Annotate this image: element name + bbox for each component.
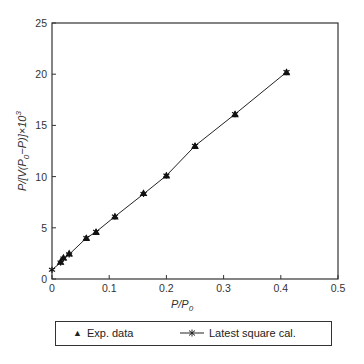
y-tick-label: 5 [41, 222, 47, 234]
y-axis-ticks: 0510152025 [35, 17, 56, 285]
triangle-marker [283, 68, 291, 75]
chart-canvas: 00.10.20.30.40.5 0510152025 P/P0 P/[V(P0… [0, 0, 364, 364]
y-tick-label: 15 [35, 119, 47, 131]
plot-frame [52, 23, 338, 279]
x-tick-label: 0.5 [331, 282, 346, 294]
triangle-marker [83, 234, 91, 241]
x-axis-ticks: 00.10.20.30.40.5 [49, 275, 345, 294]
legend: ▲ Exp. data Latest square cal. [55, 321, 332, 346]
y-tick-label: 20 [35, 68, 47, 80]
triangle-marker [191, 142, 199, 149]
x-tick-label: 0.4 [273, 282, 288, 294]
triangle-marker-icon: ▲ [73, 328, 82, 338]
x-tick-label: 0.1 [102, 282, 117, 294]
legend-item-fit-line: Latest square cal. [180, 327, 296, 339]
x-tick-label: 0.2 [159, 282, 174, 294]
x-tick-label: 0 [49, 282, 55, 294]
y-tick-label: 0 [41, 273, 47, 285]
x-tick-label: 0.3 [216, 282, 231, 294]
x-axis-label: P/P0 [171, 298, 194, 313]
legend-label-fit-line: Latest square cal. [209, 327, 296, 339]
asterisk-line-icon [180, 328, 204, 338]
legend-item-exp-data: ▲ Exp. data [73, 327, 133, 339]
triangle-marker [111, 213, 119, 220]
y-axis-label: P/[V(P0−P)]×103 [14, 111, 31, 191]
y-tick-label: 10 [35, 171, 47, 183]
legend-label-exp-data: Exp. data [87, 327, 133, 339]
y-tick-label: 25 [35, 17, 47, 29]
